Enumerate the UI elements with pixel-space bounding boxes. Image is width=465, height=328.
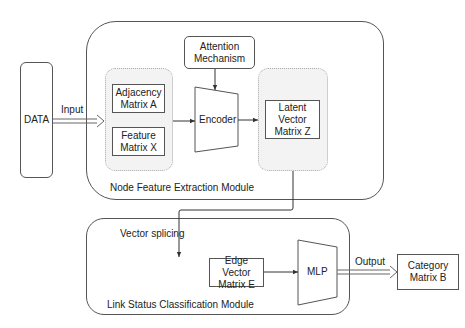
output-edge-label: Output	[355, 256, 385, 267]
input-edge-label: Input	[61, 104, 83, 115]
encoder-label: Encoder	[199, 114, 236, 125]
vector-splicing-label: Vector splicing	[120, 228, 184, 239]
node-feature-module-title: Node Feature Extraction Module	[110, 182, 254, 193]
mlp-label: MLP	[307, 266, 328, 277]
connectors-layer	[0, 0, 465, 328]
input-arrow	[53, 115, 104, 127]
output-arrow	[337, 266, 397, 278]
link-status-module-title: Link Status Classification Module	[107, 299, 254, 310]
